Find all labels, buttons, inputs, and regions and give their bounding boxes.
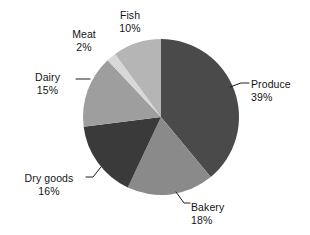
leader-line-bakery	[176, 192, 190, 203]
pie-label-produce-value: 39%	[251, 91, 291, 104]
pie-label-fish-value: 10%	[110, 22, 150, 35]
pie-label-meat: Meat 2%	[62, 28, 106, 53]
pie-label-meat-name: Meat	[62, 28, 106, 41]
pie-label-bakery-name: Bakery	[191, 201, 224, 214]
pie-label-dairy-name: Dairy	[22, 71, 73, 84]
pie-label-fish: Fish 10%	[110, 9, 150, 34]
pie-label-produce: Produce 39%	[251, 78, 291, 103]
pie-chart-canvas	[0, 0, 310, 235]
leader-line-drygoods	[86, 167, 101, 177]
pie-slices	[83, 39, 239, 195]
pie-label-meat-value: 2%	[62, 41, 106, 54]
pie-chart-figure: Produce 39% Bakery 18% Dry goods 16% Dai…	[0, 0, 310, 235]
leader-line-produce	[230, 83, 249, 87]
pie-label-dairy: Dairy 15%	[22, 71, 73, 96]
pie-label-bakery-value: 18%	[191, 214, 224, 227]
pie-label-dry-goods-name: Dry goods	[13, 172, 85, 185]
pie-label-dairy-value: 15%	[22, 84, 73, 97]
pie-label-produce-name: Produce	[251, 78, 291, 91]
pie-label-dry-goods-value: 16%	[13, 185, 85, 198]
pie-label-dry-goods: Dry goods 16%	[13, 172, 85, 197]
pie-label-bakery: Bakery 18%	[191, 201, 224, 226]
pie-label-fish-name: Fish	[110, 9, 150, 22]
